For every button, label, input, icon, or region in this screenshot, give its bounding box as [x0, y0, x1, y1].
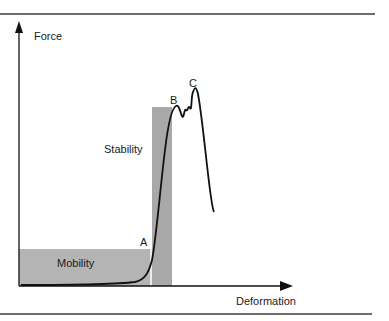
y-axis-arrow-icon [15, 21, 23, 33]
stability-region [152, 107, 172, 286]
x-axis-arrow-icon [280, 281, 293, 291]
stability-label: Stability [104, 143, 143, 155]
y-axis-label: Force [34, 30, 62, 42]
point-b-label: B [170, 94, 177, 106]
point-a-label: A [140, 236, 148, 248]
point-c-label: C [189, 77, 197, 89]
x-axis-label: Deformation [236, 295, 296, 307]
force-deformation-diagram: Force Deformation Stability Mobility A B… [0, 0, 389, 321]
mobility-label: Mobility [57, 257, 95, 269]
